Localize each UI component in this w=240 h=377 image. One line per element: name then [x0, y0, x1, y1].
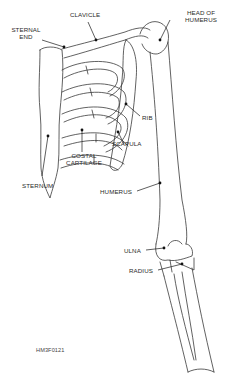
ulna-shape — [164, 274, 194, 372]
anatomy-diagram: CLAVICLE STERNAL END HEAD OF HUMERUS RIB… — [0, 0, 240, 377]
label-sternal-end-line2: END — [6, 33, 46, 40]
label-ulna: ULNA — [124, 247, 141, 254]
label-costal-cartilage-line2: CARTILAGE — [60, 159, 108, 166]
humerus-shaft — [150, 42, 187, 244]
label-rib: RIB — [142, 114, 153, 121]
label-scapula: SCAPULA — [112, 140, 142, 147]
humerus-head-shape — [140, 22, 169, 54]
label-head-of-humerus-line2: HUMERUS — [178, 16, 224, 23]
label-costal-cartilage: COSTAL CARTILAGE — [60, 152, 108, 166]
label-head-of-humerus: HEAD OF HUMERUS — [178, 9, 224, 23]
scapula-shape — [110, 40, 137, 170]
label-clavicle: CLAVICLE — [70, 11, 100, 18]
label-humerus: HUMERUS — [100, 188, 132, 195]
figure-code: HM3F0121 — [36, 347, 64, 354]
label-sternal-end-line1: STERNAL — [6, 26, 46, 33]
label-head-of-humerus-line1: HEAD OF — [178, 9, 224, 16]
label-costal-cartilage-line1: COSTAL — [60, 152, 108, 159]
label-sternum: STERNUM — [22, 182, 53, 189]
clavicle-shape — [62, 28, 150, 58]
elbow-joint — [156, 240, 194, 276]
sternum-shape — [39, 47, 63, 198]
label-sternal-end: STERNAL END — [6, 26, 46, 40]
label-radius: RADIUS — [129, 267, 153, 274]
radius-shape — [182, 268, 214, 372]
